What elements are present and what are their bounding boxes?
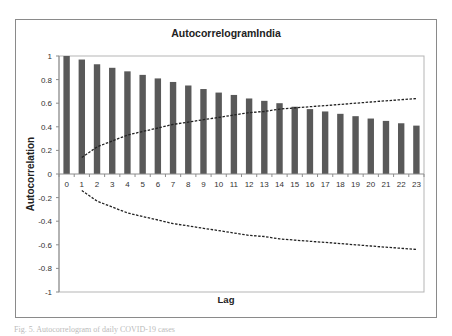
x-tick-label: 6 bbox=[156, 180, 161, 189]
x-tick-label: 2 bbox=[95, 180, 100, 189]
bar-lag-15 bbox=[292, 107, 298, 174]
y-tick-label: 0.2 bbox=[41, 146, 53, 155]
y-tick-label: -0.2 bbox=[38, 194, 52, 203]
y-tick-label: 0.8 bbox=[41, 76, 53, 85]
y-tick-label: 0.6 bbox=[41, 99, 53, 108]
bar-lag-7 bbox=[170, 82, 176, 174]
x-tick-label: 9 bbox=[201, 180, 206, 189]
y-tick-label: -0.6 bbox=[38, 241, 52, 250]
x-tick-label: 20 bbox=[366, 180, 375, 189]
bar-lag-0 bbox=[63, 56, 69, 174]
x-tick-label: 0 bbox=[64, 180, 69, 189]
bar-lag-8 bbox=[185, 86, 191, 175]
x-tick-label: 23 bbox=[412, 180, 421, 189]
x-tick-label: 14 bbox=[275, 180, 284, 189]
bar-lag-11 bbox=[231, 95, 237, 174]
x-tick-label: 18 bbox=[336, 180, 345, 189]
bar-lag-5 bbox=[139, 75, 145, 174]
y-tick-label: 1 bbox=[48, 52, 53, 61]
y-tick-label: 0 bbox=[48, 170, 53, 179]
y-tick-label: 0.4 bbox=[41, 123, 53, 132]
bar-lag-6 bbox=[155, 78, 161, 174]
bar-lag-17 bbox=[322, 111, 328, 174]
x-tick-label: 15 bbox=[290, 180, 299, 189]
x-tick-label: 22 bbox=[397, 180, 406, 189]
bar-lag-22 bbox=[398, 123, 404, 174]
x-tick-label: 5 bbox=[140, 180, 145, 189]
figure-caption: Fig. 5. Autocorrelogram of daily COVID-1… bbox=[14, 325, 175, 334]
x-tick-label: 13 bbox=[260, 180, 269, 189]
bar-lag-20 bbox=[368, 119, 374, 174]
x-tick-label: 17 bbox=[321, 180, 330, 189]
plot-area: 10.80.60.40.20-0.2-0.4-0.6-0.8-101234567… bbox=[0, 0, 452, 336]
x-tick-label: 3 bbox=[110, 180, 115, 189]
x-tick-label: 21 bbox=[382, 180, 391, 189]
bar-lag-3 bbox=[109, 68, 115, 174]
bar-lag-14 bbox=[276, 103, 282, 174]
bar-lag-19 bbox=[352, 116, 358, 174]
bar-lag-4 bbox=[124, 71, 130, 174]
bar-lag-18 bbox=[337, 114, 343, 174]
x-tick-label: 1 bbox=[80, 180, 85, 189]
x-tick-label: 11 bbox=[230, 180, 239, 189]
x-tick-label: 16 bbox=[305, 180, 314, 189]
bar-lag-21 bbox=[383, 121, 389, 174]
y-tick-label: -0.8 bbox=[38, 264, 52, 273]
bar-lag-16 bbox=[307, 109, 313, 174]
lower-confidence-line bbox=[82, 191, 417, 250]
x-tick-label: 12 bbox=[245, 180, 254, 189]
bar-lag-12 bbox=[246, 98, 252, 174]
y-tick-label: -1 bbox=[45, 288, 53, 297]
y-tick-label: -0.4 bbox=[38, 217, 52, 226]
x-tick-label: 7 bbox=[171, 180, 176, 189]
x-tick-label: 10 bbox=[214, 180, 223, 189]
x-tick-label: 4 bbox=[125, 180, 130, 189]
bar-lag-23 bbox=[413, 126, 419, 174]
x-tick-label: 19 bbox=[351, 180, 360, 189]
bar-lag-10 bbox=[215, 93, 221, 174]
bar-lag-2 bbox=[94, 64, 100, 174]
bar-lag-9 bbox=[200, 89, 206, 174]
x-tick-label: 8 bbox=[186, 180, 191, 189]
